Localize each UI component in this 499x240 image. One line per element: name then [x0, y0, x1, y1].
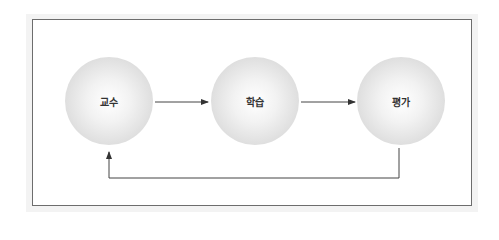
node-evaluation: 평가	[357, 57, 445, 145]
arrow-evaluation-to-teaching-feedback	[109, 148, 399, 178]
node-learning: 학습	[211, 57, 299, 145]
node-label-learning: 학습	[246, 94, 265, 109]
node-label-evaluation: 평가	[392, 94, 411, 109]
node-teaching: 교수	[65, 57, 153, 145]
node-label-teaching: 교수	[100, 94, 119, 109]
